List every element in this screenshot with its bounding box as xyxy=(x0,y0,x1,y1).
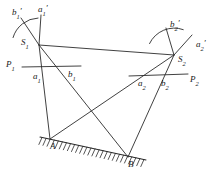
ground-hatch-stroke xyxy=(112,153,115,160)
ground-hatch-stroke xyxy=(72,145,75,152)
ground-hatch-stroke xyxy=(43,138,46,145)
ground-hatch-stroke xyxy=(120,155,123,162)
label-p1: P1 xyxy=(6,60,15,69)
ground-hatch-stroke xyxy=(63,143,66,150)
ground-hatch-stroke xyxy=(39,137,42,144)
label-a2-prime: a2′ xyxy=(196,40,206,49)
ground-hatch-stroke xyxy=(76,145,79,152)
label-p2: P2 xyxy=(190,75,199,84)
label-point-a: A xyxy=(50,142,56,151)
diagram-canvas: b1′ a1′ b2′ a2′ S1 S2 P1 P2 a1 b1 a2 b2 … xyxy=(0,0,217,183)
ground-hatch-stroke xyxy=(100,151,103,158)
angle-arcs-group xyxy=(13,18,183,44)
reference-lines-group xyxy=(22,66,188,76)
ground-hatch-stroke xyxy=(59,142,62,149)
diagram-vector-layer xyxy=(0,0,217,183)
ground-hatch-stroke xyxy=(84,147,87,154)
S1-S2-baseline xyxy=(39,45,174,55)
sight-lines-group xyxy=(39,45,174,157)
ray-S2-a2prime xyxy=(174,35,192,55)
label-point-b: B xyxy=(128,160,134,169)
label-b1: b1 xyxy=(68,70,76,79)
ray-S1-a1prime xyxy=(39,15,41,45)
ground-hatch-stroke xyxy=(96,150,99,157)
ground-hatch-stroke xyxy=(80,146,83,153)
ground-hatch-stroke xyxy=(88,148,91,155)
ground-hatch-stroke xyxy=(67,144,70,151)
label-station-s1: S1 xyxy=(21,38,29,47)
ray-S2-b2prime xyxy=(166,28,174,55)
S1-to-A xyxy=(39,45,50,139)
ground-hatch-stroke xyxy=(92,149,95,156)
ground-hatch-stroke xyxy=(104,152,107,159)
ground-hatch-stroke xyxy=(141,160,144,167)
P2-horizontal xyxy=(129,74,188,76)
ground-hatch-stroke xyxy=(116,154,119,161)
label-a1: a1 xyxy=(33,72,41,81)
label-station-s2: S2 xyxy=(178,55,186,64)
label-a1-prime: a1′ xyxy=(38,5,48,14)
tick-rays-group xyxy=(21,15,192,55)
arc-S1 xyxy=(13,18,38,38)
ground-hatch-stroke xyxy=(137,159,140,166)
label-a2: a2 xyxy=(138,79,146,88)
label-b2: b2 xyxy=(161,79,169,88)
ground-hatch-stroke xyxy=(108,152,111,159)
label-b2-prime: b2′ xyxy=(170,20,180,29)
label-b1-prime: b1′ xyxy=(12,8,22,17)
P1-horizontal xyxy=(22,66,81,67)
